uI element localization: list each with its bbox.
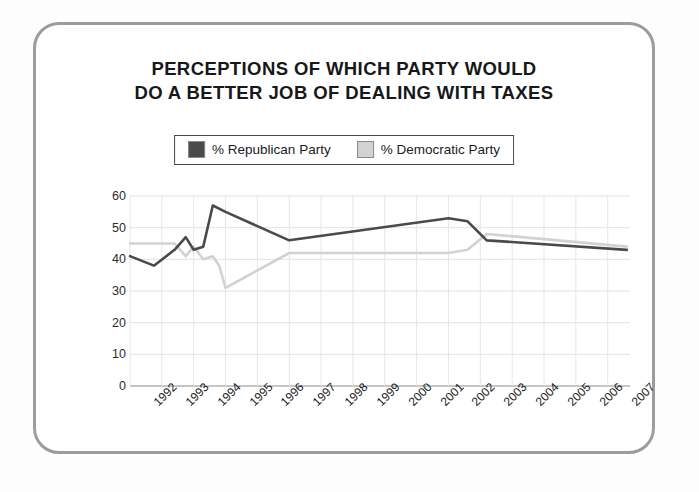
chart-card: PERCEPTIONS OF WHICH PARTY WOULD DO A BE…: [33, 22, 655, 454]
x-axis-tick: 1992: [151, 380, 180, 409]
y-axis-tick: 20: [112, 316, 126, 330]
x-axis-tick: 1997: [310, 380, 339, 409]
x-axis-tick: 1999: [374, 380, 403, 409]
x-axis-tick: 2002: [469, 380, 498, 409]
y-axis-tick: 0: [119, 379, 126, 393]
x-axis-tick: 1993: [183, 380, 212, 409]
x-axis-tick: 1998: [342, 380, 371, 409]
x-axis-tick: 1996: [278, 380, 307, 409]
y-axis-tick: 10: [112, 347, 126, 361]
x-axis-tick: 2001: [437, 380, 466, 409]
y-axis-tick: 50: [112, 221, 126, 235]
x-axis-labels: 1992199319941995199619971998199920002001…: [130, 380, 630, 450]
x-axis-tick: 2003: [501, 380, 530, 409]
x-axis-tick: 2006: [597, 380, 626, 409]
y-axis-tick: 30: [112, 284, 126, 298]
x-axis-tick: 1995: [246, 380, 275, 409]
x-axis-tick: 2004: [533, 380, 562, 409]
x-axis-tick: 2005: [565, 380, 594, 409]
x-axis-tick: 2000: [406, 380, 435, 409]
y-axis-tick: 40: [112, 252, 126, 266]
y-axis-tick: 60: [112, 189, 126, 203]
y-axis-labels: 0102030405060: [92, 185, 126, 385]
x-axis-tick: 1994: [215, 380, 244, 409]
series-line-republican: [130, 206, 627, 266]
